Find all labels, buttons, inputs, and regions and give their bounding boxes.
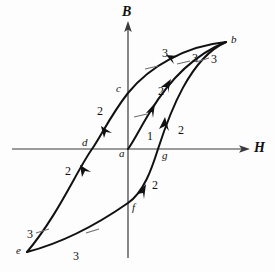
descending-branch-curve: [27, 42, 226, 252]
segment-label-3-upper-right: 3: [211, 53, 217, 65]
tick-ascending-bottom: [86, 229, 99, 233]
segment-label-2-lower-center: 2: [152, 179, 158, 191]
point-label-c: c: [116, 83, 121, 94]
direction-arrow-descending-lower: [80, 165, 91, 177]
segment-label-2-upper-left: 2: [97, 105, 103, 117]
segment-label-3-upper-middle: 3: [192, 52, 198, 64]
segment-label-2-outer-right: 2: [178, 124, 184, 136]
point-label-e: e: [16, 245, 21, 256]
direction-arrow-descending-upper: [101, 126, 112, 138]
tick-initial-1: [134, 114, 147, 117]
point-label-f: f: [132, 202, 135, 213]
point-label-d: d: [82, 137, 88, 148]
axis-label-h: H: [254, 141, 265, 155]
point-label-g: g: [162, 150, 168, 161]
segment-label-2-inner-upper: 2: [158, 85, 164, 97]
segment-label-2-lower-left: 2: [65, 165, 71, 177]
tick-initial-upper: [177, 61, 190, 64]
ascending-branch-curve: [27, 42, 226, 252]
axis-label-b: B: [122, 5, 131, 19]
hysteresis-figure: B H a b c d e f g 1 2 2 2 2 2 3 3 3 3 3: [0, 0, 275, 272]
segment-label-3-bottom-left: 3: [27, 228, 33, 240]
direction-arrow-group: [80, 55, 178, 199]
segment-label-3-upper-left: 3: [162, 47, 168, 59]
curve-group: [27, 42, 226, 252]
point-label-b: b: [231, 34, 237, 45]
segment-label-3-bottom-center: 3: [73, 250, 79, 262]
point-label-a: a: [119, 148, 125, 159]
segment-label-1-initial: 1: [147, 130, 153, 142]
